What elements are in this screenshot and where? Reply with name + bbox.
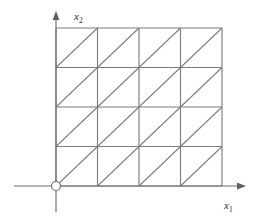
mesh-figure: x2 x1 [0, 0, 260, 224]
mesh-svg [0, 0, 260, 224]
coordinate-axes [14, 19, 238, 212]
mesh-diagonal [181, 147, 223, 187]
x1-axis-label-subscript: 1 [229, 205, 233, 214]
mesh-grid-lines [56, 28, 222, 186]
x2-axis-label: x2 [74, 11, 83, 22]
mesh-diagonal [56, 28, 181, 147]
mesh-diagonal [98, 68, 223, 187]
x1-axis-label: x1 [224, 200, 233, 211]
mesh-diagonal [56, 28, 98, 68]
x2-axis-label-subscript: 2 [79, 16, 83, 25]
origin-open-circle [52, 182, 61, 191]
